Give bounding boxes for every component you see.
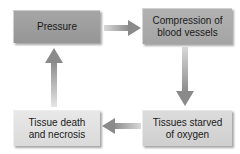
node-label-line1: Tissue death (29, 117, 86, 129)
arrow-right-icon (104, 19, 142, 37)
node-tissue-death-and-necrosis: Tissue death and necrosis (13, 110, 100, 146)
node-label-line1: Tissues starved (153, 117, 223, 129)
node-tissues-starved-of-oxygen: Tissues starved of oxygen (142, 110, 232, 146)
node-label-line2: blood vessels (152, 27, 222, 39)
arrow-up-icon (45, 47, 63, 107)
node-label-line2: of oxygen (153, 129, 223, 141)
node-label: Pressure (37, 21, 77, 33)
node-compression-of-blood-vessels: Compression of blood vessels (142, 8, 232, 44)
arrow-down-icon (176, 47, 194, 107)
node-label-line1: Compression of (152, 15, 222, 27)
node-label-line2: and necrosis (29, 129, 86, 141)
arrow-left-icon (101, 117, 141, 135)
node-pressure: Pressure (13, 10, 100, 43)
